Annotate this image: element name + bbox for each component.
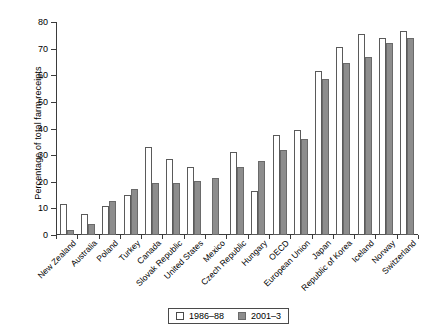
bar-period1 bbox=[251, 191, 258, 235]
bar-group bbox=[99, 22, 120, 235]
y-tick-label: 40 bbox=[38, 125, 48, 134]
bar-period2 bbox=[258, 161, 265, 235]
open-square-icon bbox=[176, 312, 184, 320]
x-tick-label: Poland bbox=[95, 238, 121, 264]
bar-group bbox=[226, 22, 247, 235]
bar-period1 bbox=[294, 130, 301, 235]
bar-period2 bbox=[173, 183, 180, 235]
bar-period2 bbox=[194, 181, 201, 235]
bar-group bbox=[56, 22, 77, 235]
bar-period1 bbox=[145, 147, 152, 235]
legend-label-1986-88: 1986–88 bbox=[189, 311, 224, 321]
farm-receipts-bar-chart: Percentage of total farm receipts 010203… bbox=[0, 0, 428, 332]
y-tick-label: 30 bbox=[38, 151, 48, 160]
bar-group bbox=[205, 22, 226, 235]
bar-period2 bbox=[212, 178, 219, 235]
legend-label-2001-3: 2001–3 bbox=[251, 311, 281, 321]
bar-period2 bbox=[67, 230, 74, 235]
bar-group bbox=[333, 22, 354, 235]
bar-period1 bbox=[379, 38, 386, 235]
bar-period2 bbox=[365, 57, 372, 235]
bar-period2 bbox=[322, 79, 329, 235]
bar-period2 bbox=[237, 167, 244, 235]
y-tick-label: 0 bbox=[43, 231, 48, 240]
x-tick bbox=[418, 235, 419, 239]
bar-group bbox=[290, 22, 311, 235]
bar-period2 bbox=[301, 139, 308, 235]
bar-group bbox=[354, 22, 375, 235]
y-tick-label: 10 bbox=[38, 204, 48, 213]
bar-period1 bbox=[273, 135, 280, 235]
bar-period1 bbox=[60, 204, 67, 235]
bar-period1 bbox=[166, 159, 173, 235]
bar-group bbox=[120, 22, 141, 235]
bar-group bbox=[375, 22, 396, 235]
bar-period1 bbox=[102, 206, 109, 235]
legend-item-1986-88: 1986–88 bbox=[176, 311, 224, 321]
y-tick-label: 60 bbox=[38, 71, 48, 80]
chart-legend: 1986–88 2001–3 bbox=[168, 308, 289, 324]
y-tick-label: 20 bbox=[38, 178, 48, 187]
x-axis-label: Poland bbox=[95, 238, 121, 264]
bar-group bbox=[248, 22, 269, 235]
bar-period2 bbox=[407, 38, 414, 235]
bar-period1 bbox=[315, 71, 322, 235]
bar-period2 bbox=[386, 43, 393, 235]
y-tick-label: 70 bbox=[38, 45, 48, 54]
bar-period2 bbox=[88, 224, 95, 235]
bar-group bbox=[269, 22, 290, 235]
bar-group bbox=[184, 22, 205, 235]
bar-period1 bbox=[336, 47, 343, 235]
bar-period1 bbox=[358, 34, 365, 235]
bar-series-container bbox=[56, 22, 418, 235]
y-tick-label: 80 bbox=[38, 18, 48, 27]
bar-period1 bbox=[230, 152, 237, 235]
filled-square-icon bbox=[238, 312, 246, 320]
bar-period1 bbox=[400, 31, 407, 235]
x-axis-labels: New ZealandAustraliaPolandTurkeyCanadaSl… bbox=[56, 238, 418, 304]
bar-period2 bbox=[131, 189, 138, 235]
bar-period2 bbox=[343, 63, 350, 235]
bar-period1 bbox=[187, 167, 194, 235]
bar-period2 bbox=[109, 201, 116, 235]
bar-period1 bbox=[124, 195, 131, 235]
bar-group bbox=[77, 22, 98, 235]
bar-group bbox=[162, 22, 183, 235]
bar-period2 bbox=[152, 183, 159, 235]
plot-area: 01020304050607080 bbox=[56, 22, 418, 235]
bar-group bbox=[397, 22, 418, 235]
bar-period1 bbox=[81, 214, 88, 235]
y-tick-label: 50 bbox=[38, 98, 48, 107]
bar-period2 bbox=[280, 150, 287, 235]
legend-item-2001-3: 2001–3 bbox=[238, 311, 281, 321]
bar-group bbox=[141, 22, 162, 235]
bar-group bbox=[312, 22, 333, 235]
